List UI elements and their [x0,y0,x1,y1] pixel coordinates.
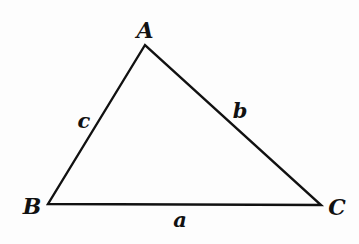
vertex-label-c: C [328,194,346,220]
side-label-a: a [173,207,187,232]
side-label-c: c [78,108,91,133]
triangle-diagram: A B C a b c [0,0,359,244]
side-label-b: b [233,98,248,123]
vertex-label-a: A [134,17,153,43]
vertex-label-b: B [22,193,42,219]
